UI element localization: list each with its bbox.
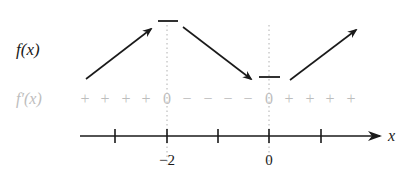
increasing-arrow-icon bbox=[86, 29, 151, 79]
sign-plus: + bbox=[80, 90, 89, 107]
sign-chart-diagram: f(x) f′(x) + + + + 0 − − − − 0 + + + + x… bbox=[0, 0, 399, 173]
tick-label-0: 0 bbox=[265, 152, 273, 168]
sign-plus: + bbox=[100, 90, 109, 107]
sign-minus: − bbox=[223, 90, 232, 107]
sign-minus: − bbox=[203, 90, 212, 107]
decreasing-arrow-icon bbox=[183, 27, 251, 79]
sign-plus: + bbox=[325, 90, 334, 107]
sign-plus: + bbox=[284, 90, 293, 107]
sign-plus: + bbox=[141, 90, 150, 107]
sign-minus: − bbox=[243, 90, 252, 107]
sign-minus: − bbox=[182, 90, 191, 107]
tick-label-minus2: −2 bbox=[159, 152, 175, 168]
sign-chart-row: + + + + 0 − − − − 0 + + + + bbox=[80, 90, 355, 107]
f-behaviour bbox=[86, 21, 356, 80]
sign-zero: 0 bbox=[163, 90, 171, 107]
sign-plus: + bbox=[121, 90, 130, 107]
sign-plus: + bbox=[305, 90, 314, 107]
axis-variable-label: x bbox=[387, 127, 395, 144]
sign-plus: + bbox=[346, 90, 355, 107]
f-row-label: f(x) bbox=[16, 40, 40, 59]
sign-zero: 0 bbox=[265, 90, 273, 107]
fprime-row-label: f′(x) bbox=[16, 90, 42, 108]
increasing-arrow-icon bbox=[290, 30, 356, 80]
